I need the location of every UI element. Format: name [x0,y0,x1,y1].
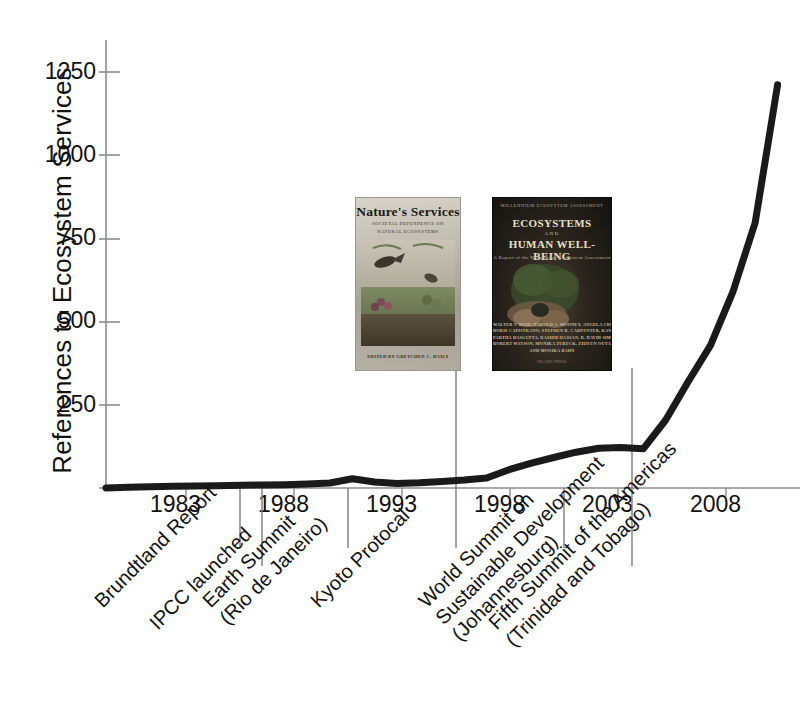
book-title-natures-services: Nature's Services [356,204,460,220]
book-cover-natures-services: Nature's Services SOCIETAL DEPENDENCE ON… [355,197,461,371]
book-authors-ecosystems: WALTER V. REID, HAROLD A. MOONEY, ANGELA… [493,322,611,354]
book-publisher-ecosystems: ISLAND PRESS [493,360,611,364]
book-author-line-4: AND MONIKA BAHN [493,348,611,354]
book-author-line-3: ROBERT WATSON, MONIKA ZURECK, ZHIYUN OUY… [493,341,611,347]
chart-figure: References to Ecosystem Services 1250 10… [0,0,812,726]
book-cover-art-natures-services [361,240,455,346]
y-tick-marks [99,72,120,488]
book-subtitle-line2-natures-services: NATURAL ECOSYSTEMS [356,229,460,234]
book-subtitle-line1-natures-services: SOCIETAL DEPENDENCE ON [356,221,460,226]
book-cover-ecosystems-human-well-being: MILLENNIUM ECOSYSTEM ASSESSMENT ECOSYSTE… [492,197,612,371]
book-author-line-1: DORIS CAPISTRANO, STEPHEN R. CARPENTER, … [493,328,611,334]
book-editor-natures-services: EDITED BY GRETCHEN C. DAILY [356,354,460,359]
